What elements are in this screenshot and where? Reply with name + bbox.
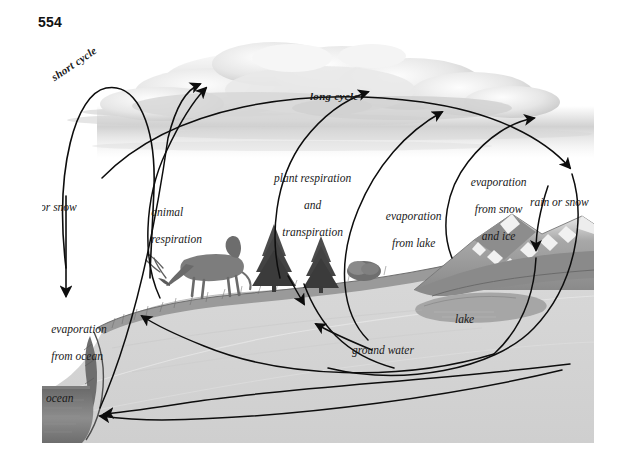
- label-long-cycle: long cycle: [310, 90, 359, 103]
- label-rain-or-snow-right: rain or snow: [530, 196, 589, 210]
- label-evaporation-from-ocean-line1: evaporation: [51, 323, 107, 335]
- label-ground-water: ground water: [352, 344, 414, 358]
- label-evaporation-from-lake-line1: evaporation: [386, 210, 442, 222]
- label-evaporation-from-ocean-line2: from ocean: [51, 350, 103, 362]
- label-plant-respiration-line3: transpiration: [282, 226, 343, 238]
- label-plant-respiration-line1: plant respiration: [274, 172, 351, 184]
- label-evaporation-from-snow-line2: from snow: [475, 203, 523, 215]
- label-animal-respiration: animal respiration: [134, 192, 202, 260]
- label-lake: lake: [455, 313, 474, 327]
- water-cycle-figure: short cycle long cycle rain or snow anim…: [42, 28, 594, 443]
- arrow-ground-water-lower: [104, 364, 570, 414]
- label-animal-respiration-line2: respiration: [151, 233, 202, 245]
- label-rain-or-snow-left: rain or snow: [42, 201, 77, 215]
- arrow-infiltration-head: [288, 276, 304, 304]
- label-evaporation-from-snow-and-ice: evaporation from snow and ice: [444, 162, 536, 257]
- label-plant-respiration: plant respiration and transpiration: [242, 158, 366, 253]
- label-evaporation-from-ocean: evaporation from ocean: [42, 309, 107, 377]
- label-evaporation-from-lake: evaporation from lake: [360, 196, 450, 264]
- label-evaporation-from-snow-line3: and ice: [482, 230, 516, 242]
- label-ocean: ocean: [46, 392, 73, 406]
- label-evaporation-from-lake-line2: from lake: [392, 237, 435, 249]
- page-canvas: 554: [0, 0, 619, 471]
- label-evaporation-from-snow-line1: evaporation: [471, 176, 527, 188]
- label-plant-respiration-line2: and: [304, 199, 321, 211]
- label-animal-respiration-line1: animal: [151, 206, 183, 218]
- arrow-rain-or-snow-right-tail: [494, 258, 536, 354]
- arrow-ground-water-return: [100, 370, 562, 420]
